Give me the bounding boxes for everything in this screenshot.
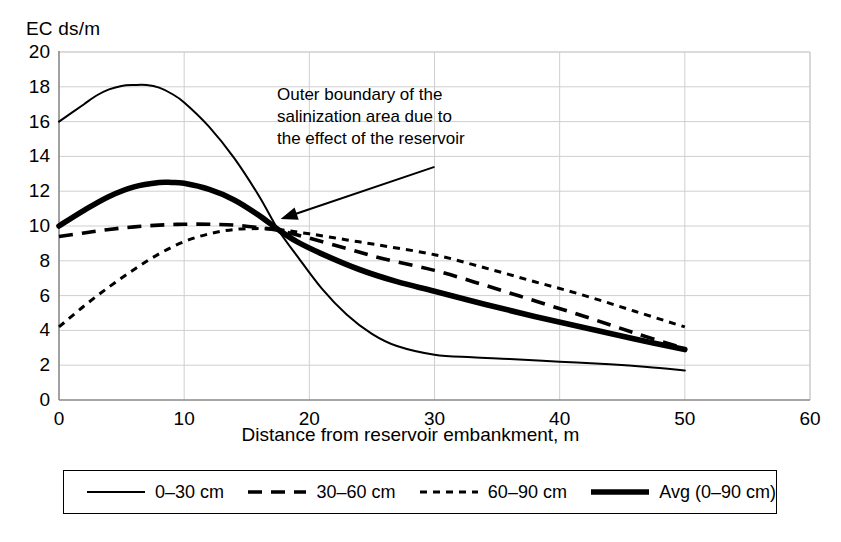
legend-label: Avg (0–90 cm) — [659, 482, 776, 503]
legend: 0–30 cm30–60 cm60–90 cmAvg (0–90 cm) — [63, 470, 777, 514]
y-tick-label: 6 — [10, 286, 50, 305]
legend-item: 30–60 cm — [247, 482, 395, 503]
legend-swatch-dotted — [419, 485, 479, 499]
x-axis-title: Distance from reservoir embankment, m — [0, 424, 841, 446]
y-tick-label: 18 — [10, 77, 50, 96]
outer-boundary-annotation: Outer boundary of the salinization area … — [277, 84, 465, 150]
y-tick-label: 4 — [10, 320, 50, 339]
legend-swatch-dashed — [247, 485, 307, 499]
y-tick-label: 16 — [10, 112, 50, 131]
y-tick-label: 14 — [10, 146, 50, 165]
legend-label: 30–60 cm — [316, 482, 395, 503]
annotation-line-2: salinization area due to — [277, 106, 465, 128]
annotation-line-3: the effect of the reservoir — [277, 128, 465, 150]
y-tick-label: 12 — [10, 181, 50, 200]
y-tick-label: 10 — [10, 216, 50, 235]
legend-label: 60–90 cm — [488, 482, 567, 503]
legend-label: 0–30 cm — [155, 482, 224, 503]
legend-swatch-thin-solid — [86, 485, 146, 499]
x-axis-title-text: Distance from reservoir embankment, m — [242, 424, 580, 445]
y-tick-label: 0 — [10, 390, 50, 409]
y-tick-label: 8 — [10, 251, 50, 270]
plot-canvas — [0, 0, 841, 542]
legend-swatch-thick-solid — [590, 485, 650, 499]
legend-item: Avg (0–90 cm) — [590, 482, 776, 503]
chart-root: EC ds/m 02468101214161820 0102030405060 … — [0, 0, 841, 542]
y-tick-label: 20 — [10, 42, 50, 61]
annotation-line-1: Outer boundary of the — [277, 84, 465, 106]
y-tick-label: 2 — [10, 355, 50, 374]
legend-item: 0–30 cm — [86, 482, 224, 503]
legend-item: 60–90 cm — [419, 482, 567, 503]
